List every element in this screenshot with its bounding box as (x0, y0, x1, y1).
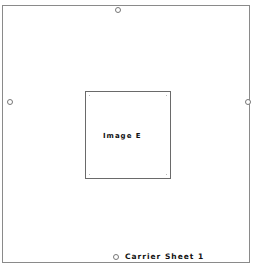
registration-hole-left-icon (7, 99, 13, 105)
image-label: Image E (103, 132, 142, 140)
corner-mark-icon (166, 174, 167, 175)
registration-hole-top-icon (115, 7, 121, 13)
image-frame: Image E (85, 91, 171, 179)
registration-hole-bottom-icon (113, 254, 119, 260)
corner-mark-icon (166, 95, 167, 96)
corner-mark-icon (89, 95, 90, 96)
registration-hole-right-icon (245, 99, 251, 105)
corner-mark-icon (89, 174, 90, 175)
carrier-sheet-label: Carrier Sheet 1 (125, 252, 204, 261)
